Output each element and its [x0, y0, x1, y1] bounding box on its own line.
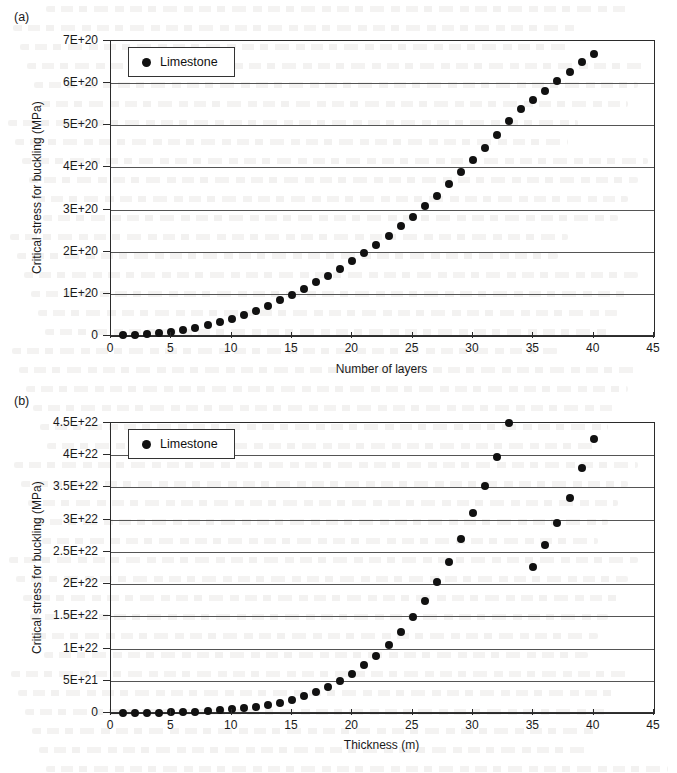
y-tick-mark [103, 422, 110, 423]
data-point [143, 330, 151, 338]
y-tick-mark [103, 40, 110, 41]
y-tick-mark [103, 82, 110, 83]
y-tick-label: 5E+20 [0, 117, 98, 131]
y-tick-mark [103, 648, 110, 649]
data-point [457, 535, 465, 543]
data-point [445, 180, 453, 188]
data-point [566, 68, 574, 76]
gridline [111, 125, 654, 126]
data-point [216, 706, 224, 714]
x-tick-mark [351, 332, 352, 338]
chart-panel-a: (a) Critical stress for buckling (MPa) N… [0, 0, 677, 386]
y-tick-label: 3E+20 [0, 202, 98, 216]
data-point [553, 519, 561, 527]
data-point [590, 50, 598, 58]
x-tick-mark [593, 709, 594, 715]
data-point [469, 156, 477, 164]
data-point [360, 249, 368, 257]
data-point [493, 131, 501, 139]
data-point [372, 241, 380, 249]
x-tick-label: 35 [526, 718, 539, 732]
gridline [111, 487, 654, 488]
data-point [529, 96, 537, 104]
x-tick-label: 15 [284, 341, 297, 355]
data-point [348, 670, 356, 678]
x-tick-mark [351, 709, 352, 715]
data-point [433, 578, 441, 586]
data-point [240, 311, 248, 319]
data-point [578, 464, 586, 472]
gridline [111, 294, 654, 295]
x-tick-mark [170, 332, 171, 338]
data-point [204, 321, 212, 329]
y-tick-mark [103, 712, 110, 713]
gridline [111, 552, 654, 553]
x-tick-label: 25 [405, 341, 418, 355]
data-point [191, 324, 199, 332]
y-axis-title-b: Critical stress for buckling (MPa) [30, 481, 44, 654]
data-point [119, 331, 127, 339]
x-tick-mark [412, 709, 413, 715]
data-point [336, 677, 344, 685]
x-tick-mark [472, 709, 473, 715]
x-tick-mark [291, 332, 292, 338]
x-tick-label: 10 [224, 341, 237, 355]
panel-label-a: (a) [14, 10, 29, 24]
data-point [312, 278, 320, 286]
panel-label-b: (b) [14, 394, 29, 408]
y-tick-mark [103, 551, 110, 552]
y-tick-mark [103, 583, 110, 584]
y-tick-mark [103, 166, 110, 167]
y-tick-mark [103, 293, 110, 294]
x-tick-mark [532, 709, 533, 715]
x-tick-label: 45 [646, 341, 659, 355]
data-point [433, 192, 441, 200]
gridline [111, 584, 654, 585]
y-tick-label: 1E+20 [0, 286, 98, 300]
y-tick-label: 3.5E+22 [0, 479, 98, 493]
data-point [324, 683, 332, 691]
data-point [240, 704, 248, 712]
data-point [167, 708, 175, 716]
data-point [288, 696, 296, 704]
y-tick-label: 4.5E+22 [0, 415, 98, 429]
gridline [111, 167, 654, 168]
x-tick-label: 15 [284, 718, 297, 732]
x-tick-mark [110, 332, 111, 338]
x-tick-label: 40 [586, 341, 599, 355]
y-tick-label: 2E+20 [0, 244, 98, 258]
legend-b: Limestone [128, 429, 235, 459]
data-point [300, 285, 308, 293]
data-point [553, 77, 561, 85]
y-tick-label: 6E+20 [0, 75, 98, 89]
gridline [111, 649, 654, 650]
data-point [421, 597, 429, 605]
data-point [204, 707, 212, 715]
legend-marker-icon [142, 58, 151, 67]
data-point [505, 117, 513, 125]
y-tick-label: 0 [0, 705, 98, 719]
y-tick-label: 7E+20 [0, 33, 98, 47]
gridline [111, 520, 654, 521]
x-tick-mark [593, 332, 594, 338]
data-point [131, 709, 139, 717]
legend-label-b: Limestone [160, 437, 218, 451]
data-point [445, 558, 453, 566]
y-tick-label: 4E+20 [0, 159, 98, 173]
x-tick-label: 0 [107, 341, 114, 355]
data-point [421, 202, 429, 210]
x-tick-label: 45 [646, 718, 659, 732]
y-tick-label: 2.5E+22 [0, 544, 98, 558]
y-tick-label: 1E+22 [0, 641, 98, 655]
x-tick-label: 35 [526, 341, 539, 355]
x-tick-label: 0 [107, 718, 114, 732]
data-point [252, 703, 260, 711]
data-point [348, 257, 356, 265]
data-point [541, 541, 549, 549]
data-point [360, 661, 368, 669]
data-point [264, 302, 272, 310]
x-tick-label: 20 [345, 718, 358, 732]
y-tick-label: 4E+22 [0, 447, 98, 461]
chart-panel-b: (b) Critical stress for buckling (MPa) T… [0, 386, 677, 773]
gridline [111, 252, 654, 253]
